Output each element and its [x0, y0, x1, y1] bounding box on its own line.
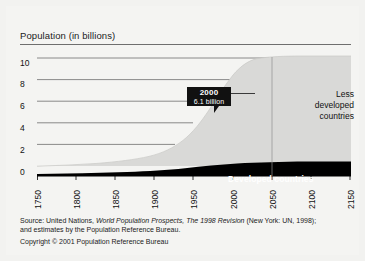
- x-axis-tick-2150: 2150: [346, 190, 356, 209]
- x-axis-tick-1900: 1900: [150, 190, 160, 209]
- x-axis-tick-2000: 2000: [229, 190, 239, 209]
- x-axis-tick-1850: 1850: [111, 190, 121, 209]
- series-label-developed: Developed countries: [228, 174, 314, 184]
- source-note: Source: United Nations, World Population…: [20, 216, 356, 234]
- callout-leader-line: [231, 93, 255, 94]
- y-axis-tick-8: 8: [20, 79, 36, 89]
- x-axis-tick-2100: 2100: [307, 190, 317, 209]
- source-suffix: (New York: UN, 1998);: [245, 217, 317, 224]
- source-line2: and estimates by the Population Referenc…: [20, 226, 180, 233]
- x-axis-tick-2050: 2050: [268, 190, 278, 209]
- series-label-less-developed: Less developed countries: [258, 89, 354, 122]
- series-label-less-developed-line3: countries: [258, 111, 354, 122]
- y-axis-tick-4: 4: [20, 123, 36, 133]
- callout-value-label: 6.1 billion: [187, 98, 231, 106]
- source-prefix: Source: United Nations,: [20, 217, 96, 224]
- title-divider: [20, 44, 351, 45]
- chart-inner-frame: Population (in billions) 10 8 6 4 2 0: [6, 6, 359, 255]
- annotation-callout-2000: 2000 6.1 billion: [187, 87, 231, 106]
- y-axis-tick-6: 6: [20, 101, 36, 111]
- y-axis-tick-0: 0: [20, 167, 36, 177]
- x-axis-tick-1750: 1750: [33, 190, 43, 209]
- copyright-note: Copyright © 2001 Population Reference Bu…: [20, 237, 168, 246]
- y-axis-tick-2: 2: [20, 145, 36, 155]
- callout-year-label: 2000: [187, 87, 231, 98]
- y-axis-tick-10: 10: [20, 58, 36, 68]
- x-axis-tick-1950: 1950: [189, 190, 199, 209]
- callout-pointer-icon: [214, 106, 219, 113]
- series-label-less-developed-line2: developed: [258, 100, 354, 111]
- series-label-less-developed-line1: Less: [258, 89, 354, 100]
- source-publication-title: World Population Prospects, The 1998 Rev…: [96, 217, 245, 224]
- population-growth-chart-figure: Population (in billions) 10 8 6 4 2 0: [0, 0, 365, 261]
- x-axis-tick-1800: 1800: [72, 190, 82, 209]
- page-title: Population (in billions): [20, 30, 115, 41]
